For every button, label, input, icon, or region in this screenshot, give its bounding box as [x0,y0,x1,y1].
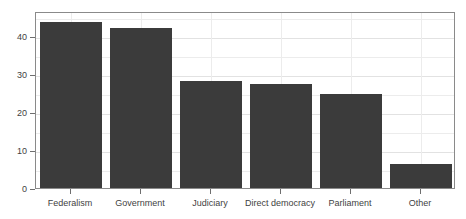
bar [40,22,102,188]
bar [250,84,312,188]
x-tick-mark [420,189,421,194]
bar-chart: 010203040 FederalismGovernmentJudiciaryD… [0,0,466,219]
y-tick-label: 20 [5,108,27,118]
y-tick-mark [30,37,35,38]
y-tick-label: 10 [5,146,27,156]
bars-layer [36,13,454,188]
bar [110,28,172,188]
y-tick-label: 30 [5,70,27,80]
x-tick-mark [280,189,281,194]
x-tick-label: Government [115,198,165,208]
x-tick-mark [70,189,71,194]
x-tick-label: Other [409,198,432,208]
x-tick-label: Federalism [48,198,93,208]
plot-panel [35,12,455,189]
x-tick-label: Direct democracy [245,198,315,208]
x-tick-mark [210,189,211,194]
x-tick-mark [350,189,351,194]
y-axis: 010203040 [0,0,35,219]
x-axis: FederalismGovernmentJudiciaryDirect demo… [0,189,466,219]
x-tick-mark [140,189,141,194]
bar [320,94,382,188]
x-tick-label: Parliament [328,198,371,208]
y-tick-label: 40 [5,32,27,42]
y-tick-mark [30,113,35,114]
bar [180,81,242,188]
x-tick-label: Judiciary [192,198,228,208]
y-tick-mark [30,75,35,76]
y-tick-mark [30,151,35,152]
bar [390,164,452,188]
